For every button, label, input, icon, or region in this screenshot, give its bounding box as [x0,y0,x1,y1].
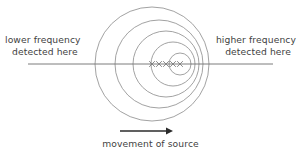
label-higher-frequency-line2: detected here [216,46,296,58]
label-movement-of-source-line1: movement of source [0,138,301,150]
label-higher-frequency: higher frequency detected here [216,34,296,57]
movement-arrow [120,128,173,135]
label-higher-frequency-line1: higher frequency [216,34,296,46]
label-lower-frequency-line1: lower frequency [5,34,81,46]
label-movement-of-source: movement of source [0,138,301,150]
wavefront-canvas [0,0,301,154]
label-lower-frequency-line2: detected here [5,46,81,58]
movement-arrow-head [166,128,173,135]
label-lower-frequency: lower frequency detected here [5,34,81,57]
doppler-effect-diagram: lower frequency detected here higher fre… [0,0,301,154]
